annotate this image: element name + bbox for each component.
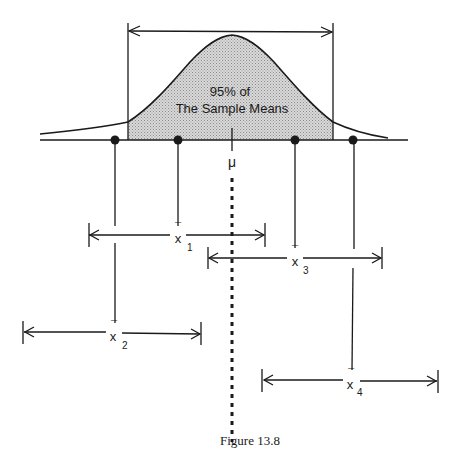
label-x2-symbol: x: [110, 329, 117, 344]
label-x2: ¯ x 2: [110, 319, 128, 351]
label-x4-subscript: 4: [357, 387, 363, 398]
label-x4: ¯ x 4: [347, 367, 363, 398]
curve-label-line2: The Sample Means: [176, 101, 289, 116]
label-x1-symbol: x: [175, 231, 182, 246]
confidence-interval-diagram: 95% of The Sample Means μ: [0, 0, 462, 465]
sample-mean-dot-x4: [349, 136, 358, 145]
label-x1-subscript: 1: [187, 242, 193, 253]
curve-label-line1: 95% of: [210, 84, 251, 99]
drop-line-x4-lower: [352, 268, 353, 370]
label-x4-symbol: x: [347, 377, 354, 392]
label-x3-symbol: x: [292, 254, 299, 269]
label-x3: ¯ x 3: [291, 244, 309, 276]
label-x2-subscript: 2: [122, 340, 128, 351]
label-x1: ¯ x 1: [174, 221, 193, 253]
label-x3-subscript: 3: [303, 265, 309, 276]
mean-symbol: μ: [228, 154, 236, 170]
figure-caption: Figure 13.8: [220, 433, 280, 448]
